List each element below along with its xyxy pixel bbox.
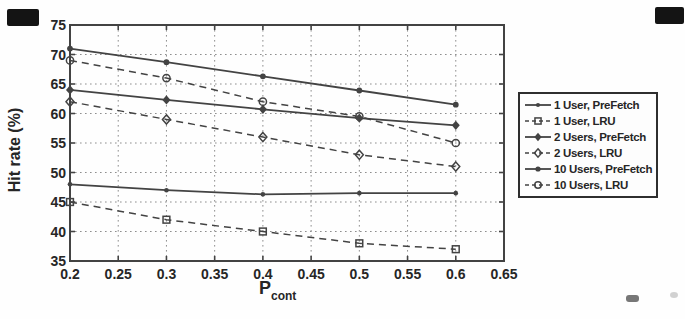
x-axis-label: Pcont [259,278,296,303]
legend-sample-10users-prefetch [524,162,552,176]
legend-item-10users-lru: 10 Users, LRU [524,178,653,192]
legend-label: 2 Users, PreFetch [554,131,646,143]
y-axis-label: Hit rate (%) [6,108,23,192]
scan-artifact-top-right [655,7,684,24]
y-tick-label: 70 [50,47,66,63]
marker-filled-circle [535,166,540,171]
legend-sample-2users-lru [524,146,552,160]
marker-filled-circle [67,46,73,52]
legend-label: 10 Users, PreFetch [554,163,652,175]
legend-sample-2users-prefetch [524,130,552,144]
y-tick-label: 45 [50,194,66,210]
x-tick-label: 0.45 [297,266,324,282]
marker-filled-diamond [66,85,74,94]
marker-small-dot [453,191,458,196]
legend-label: 2 Users, LRU [554,147,622,159]
marker-filled-diamond [534,133,541,141]
y-tick-label: 60 [50,106,66,122]
marker-small-dot [536,103,540,107]
marker-filled-circle [260,73,266,79]
y-tick-label: 65 [50,76,66,92]
marker-filled-circle [164,59,170,65]
x-tick-label: 0.65 [490,266,517,282]
marker-small-dot [357,191,362,196]
scan-artifact-top-left [7,9,39,26]
scan-artifact-bottom-right-dot [670,292,678,298]
legend-sample-1user-lru [524,114,552,128]
x-tick-label: 0.55 [394,266,421,282]
y-tick-label: 50 [50,165,66,181]
marker-small-dot [68,182,73,187]
legend-sample-1user-prefetch [524,98,552,112]
marker-small-dot [164,188,169,193]
marker-filled-circle [453,102,459,108]
y-tick-label: 55 [50,135,66,151]
legend-item-2users-prefetch: 2 Users, PreFetch [524,130,653,144]
x-tick-label: 0.25 [105,266,132,282]
y-tick-label: 40 [50,224,66,240]
marker-filled-diamond [452,121,460,130]
scan-artifact-bottom-right-dash [626,295,639,302]
y-tick-label: 75 [50,17,66,33]
x-tick-label: 0.6 [446,266,466,282]
x-tick-label: 0.3 [157,266,177,282]
legend-item-1user-lru: 1 User, LRU [524,114,653,128]
marker-filled-circle [356,88,362,94]
legend-box: 1 User, PreFetch 1 User, LRU 2 Users, Pr… [518,92,658,198]
legend-item-2users-lru: 2 Users, LRU [524,146,653,160]
legend-label: 1 User, PreFetch [554,99,639,111]
legend-sample-10users-lru [524,178,552,192]
marker-filled-diamond [259,105,267,114]
marker-filled-diamond [162,95,170,104]
legend-label: 1 User, LRU [554,115,615,127]
x-tick-label: 0.5 [350,266,370,282]
marker-small-dot [261,192,266,197]
legend-item-1user-prefetch: 1 User, PreFetch [524,98,653,112]
legend-label: 10 Users, LRU [554,179,628,191]
scanned-line-chart-figure: 3540455055606570750.20.250.30.350.40.450… [0,0,685,319]
x-tick-label: 0.2 [60,266,80,282]
x-tick-label: 0.35 [201,266,228,282]
legend-item-10users-prefetch: 10 Users, PreFetch [524,162,653,176]
